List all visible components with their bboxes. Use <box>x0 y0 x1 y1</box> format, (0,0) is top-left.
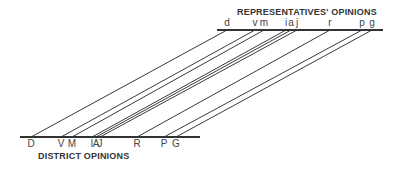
tick-label-D: D <box>27 138 34 149</box>
district-axis-title: DISTRICT OPINIONS <box>38 151 129 161</box>
tick-label-p: p <box>359 17 365 28</box>
connector-R-r <box>137 30 330 137</box>
tick-label-J: J <box>98 138 103 149</box>
connector-V-v <box>61 30 255 137</box>
tick-label-r: r <box>328 17 332 28</box>
tick-label-d: d <box>224 17 230 28</box>
tick-label-R: R <box>133 138 140 149</box>
tick-label-m: m <box>260 17 268 28</box>
connector-G-g <box>176 30 372 137</box>
representatives-axis-title: REPRESENTATIVES' OPINIONS <box>237 7 377 17</box>
tick-label-a: a <box>288 17 294 28</box>
representatives-tick-labels: dvmiajrpg <box>224 17 375 28</box>
connector-M-m <box>72 30 264 137</box>
tick-label-G: G <box>172 138 180 149</box>
connector-lines <box>31 30 372 137</box>
tick-label-i: i <box>285 17 287 28</box>
district-tick-labels: DVMIAJRPG <box>27 138 180 149</box>
tick-label-v: v <box>253 17 258 28</box>
tick-label-g: g <box>369 17 375 28</box>
tick-label-P: P <box>161 138 168 149</box>
tick-label-M: M <box>68 138 76 149</box>
opinion-mapping-diagram: dvmiajrpg DVMIAJRPG REPRESENTATIVES' OPI… <box>0 0 403 170</box>
tick-label-j: j <box>295 17 298 28</box>
connector-I-i <box>92 30 286 137</box>
tick-label-V: V <box>58 138 65 149</box>
